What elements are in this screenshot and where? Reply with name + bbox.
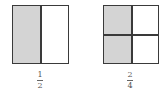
fraction-model-two-fourths bbox=[103, 5, 159, 64]
numerator: 1 bbox=[30, 71, 50, 79]
fraction-model-one-half bbox=[12, 5, 69, 64]
denominator: 2 bbox=[30, 82, 50, 90]
fraction-label-two-fourths: 2 4 bbox=[120, 71, 140, 90]
horizontal-divider bbox=[104, 34, 158, 36]
denominator: 4 bbox=[120, 82, 140, 90]
fraction-label-one-half: 1 2 bbox=[30, 71, 50, 90]
vertical-divider bbox=[40, 6, 42, 63]
shaded-quarter-bottom bbox=[104, 35, 131, 63]
shaded-quarter-top bbox=[104, 6, 131, 34]
numerator: 2 bbox=[120, 71, 140, 79]
shaded-half bbox=[13, 6, 40, 63]
